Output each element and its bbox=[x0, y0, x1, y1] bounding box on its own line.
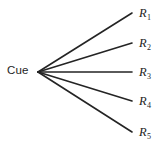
branch-line-r1 bbox=[38, 13, 132, 72]
response-node-label-r2: R2 bbox=[139, 37, 151, 50]
response-letter-r1: R bbox=[139, 6, 147, 20]
branch-line-r2 bbox=[38, 43, 132, 72]
response-node-label-r3: R3 bbox=[139, 66, 151, 79]
response-letter-r4: R bbox=[139, 94, 147, 108]
response-node-label-r1: R1 bbox=[139, 7, 151, 20]
response-subscript-r2: 2 bbox=[147, 43, 151, 52]
response-letter-r2: R bbox=[139, 36, 147, 50]
branch-line-r4 bbox=[38, 72, 132, 101]
response-letter-r3: R bbox=[139, 65, 147, 79]
response-subscript-r5: 5 bbox=[147, 132, 151, 141]
branch-line-r5 bbox=[38, 72, 132, 132]
branch-line-group bbox=[38, 13, 132, 132]
response-subscript-r3: 3 bbox=[147, 72, 151, 81]
response-node-label-r5: R5 bbox=[139, 126, 151, 139]
cue-node-label: Cue bbox=[7, 65, 29, 77]
fan-diagram: Cue R1R2R3R4R5 bbox=[0, 0, 164, 147]
response-node-label-r4: R4 bbox=[139, 95, 151, 108]
response-subscript-r1: 1 bbox=[147, 13, 151, 22]
response-letter-r5: R bbox=[139, 125, 147, 139]
response-subscript-r4: 4 bbox=[147, 101, 151, 110]
